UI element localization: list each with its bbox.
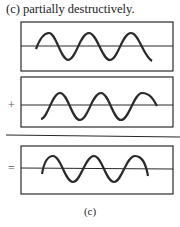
interference-diagram (0, 0, 180, 227)
plus-operator: + (8, 98, 15, 113)
wave-panel-1 (21, 22, 173, 71)
figure-caption: (c) (0, 205, 180, 217)
equals-operator: = (8, 161, 15, 176)
sum-divider-line (6, 135, 180, 137)
wave-panel-2 (21, 77, 173, 127)
wave-panel-sum (21, 146, 173, 194)
